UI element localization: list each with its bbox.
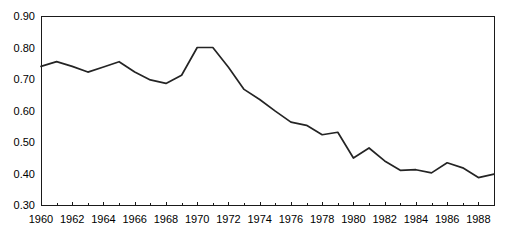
x-tick-label: 1984	[404, 213, 428, 225]
y-tick-label: 0.80	[14, 42, 35, 54]
y-tick-label: 0.60	[14, 105, 35, 117]
x-tick-label: 1978	[310, 213, 334, 225]
chart-background	[0, 0, 507, 238]
x-tick-label: 1974	[247, 213, 271, 225]
x-tick-label: 1960	[29, 213, 53, 225]
x-tick-label: 1962	[60, 213, 84, 225]
x-tick-label: 1970	[185, 213, 209, 225]
line-chart: 0.300.400.500.600.700.800.90 19601962196…	[0, 0, 507, 238]
x-tick-label: 1982	[372, 213, 396, 225]
x-tick-label: 1964	[91, 213, 115, 225]
x-tick-label: 1988	[466, 213, 490, 225]
x-tick-label: 1966	[122, 213, 146, 225]
x-tick-label: 1986	[435, 213, 459, 225]
y-tick-label: 0.90	[14, 10, 35, 22]
y-tick-label: 0.30	[14, 199, 35, 211]
y-tick-label: 0.40	[14, 168, 35, 180]
x-tick-label: 1976	[279, 213, 303, 225]
x-tick-label: 1972	[216, 213, 240, 225]
y-tick-label: 0.50	[14, 136, 35, 148]
x-tick-label: 1980	[341, 213, 365, 225]
x-axis-tick-labels: 1960196219641966196819701972197419761978…	[29, 213, 491, 225]
y-tick-label: 0.70	[14, 73, 35, 85]
x-tick-label: 1968	[154, 213, 178, 225]
chart-figure: 0.300.400.500.600.700.800.90 19601962196…	[0, 0, 507, 238]
